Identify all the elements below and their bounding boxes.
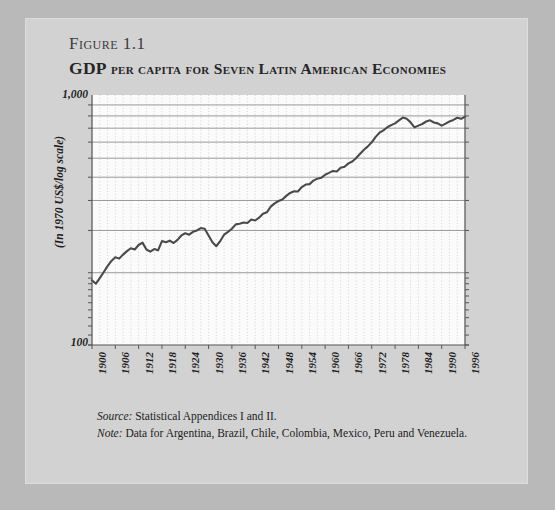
x-axis-tick-label: 1966 xyxy=(352,352,364,374)
note-label: Note: xyxy=(97,427,123,439)
x-axis-tick-label: 1900 xyxy=(96,352,108,374)
x-axis-tick-label: 1906 xyxy=(119,352,131,374)
x-axis-tick-label: 1918 xyxy=(166,352,178,374)
x-axis-tick-label: 1912 xyxy=(143,352,155,374)
source-line: Source: Statistical Appendices I and II. xyxy=(97,410,277,422)
x-axis-tick-label: 1948 xyxy=(283,352,295,374)
x-axis-tick-label: 1972 xyxy=(376,352,388,374)
x-axis-tick-label: 1930 xyxy=(213,352,225,374)
x-axis-tick-label: 1924 xyxy=(189,352,201,374)
note-text: Data for Argentina, Brazil, Chile, Colom… xyxy=(125,427,467,439)
x-axis-tick-label: 1942 xyxy=(259,352,271,374)
note-line: Note: Data for Argentina, Brazil, Chile,… xyxy=(97,427,467,439)
x-axis-tick-label: 1936 xyxy=(236,352,248,374)
x-axis-tick-label: 1996 xyxy=(469,352,481,374)
source-text: Statistical Appendices I and II. xyxy=(135,410,276,422)
x-axis-tick-label: 1984 xyxy=(422,352,434,374)
source-label: Source: xyxy=(97,410,132,422)
x-axis-tick-label: 1960 xyxy=(329,352,341,374)
figure-card: Figure 1.1 GDP per capita for Seven Lati… xyxy=(25,18,528,484)
x-axis-tick-label: 1978 xyxy=(399,352,411,374)
x-axis-tick-label: 1990 xyxy=(446,352,458,374)
x-axis-tick-label: 1954 xyxy=(306,352,318,374)
